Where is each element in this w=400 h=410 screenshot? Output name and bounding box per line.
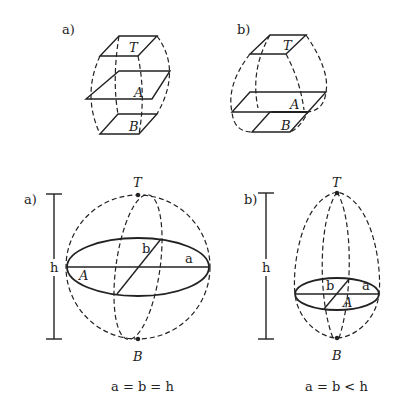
pole-top-dot: [335, 191, 339, 195]
label-b: b: [142, 241, 150, 256]
label-a: a: [362, 278, 370, 293]
label-B: B: [132, 349, 143, 364]
meridian-right: [337, 192, 349, 338]
panel-label: b): [244, 192, 257, 207]
label-T: T: [332, 175, 342, 190]
plane-middle: [232, 92, 326, 112]
pole-bottom-dot: [335, 336, 339, 340]
pole-top-dot: [136, 193, 140, 197]
label-A: A: [289, 97, 299, 112]
envelope-left: [91, 56, 100, 134]
caption: a = b < h: [305, 379, 368, 394]
panel-label: b): [237, 22, 250, 37]
label-a: a: [185, 251, 193, 266]
label-A: A: [133, 85, 143, 100]
plane-bottom: [252, 112, 308, 132]
panel-bottom-b: b) h T B A a b a = b < h: [244, 175, 380, 394]
label-A: A: [78, 268, 88, 283]
label-h: h: [50, 260, 59, 275]
label-T: T: [283, 38, 293, 53]
label-A: A: [342, 295, 352, 310]
label-h: h: [262, 260, 271, 275]
label-B: B: [128, 119, 139, 134]
panel-label: a): [24, 192, 37, 207]
label-T: T: [129, 40, 139, 55]
panel-top-a: a) T A B: [62, 22, 170, 134]
plane-top: [250, 35, 306, 54]
meridian-left: [322, 192, 337, 338]
panel-label: a): [62, 22, 75, 37]
envelope-right: [290, 35, 327, 132]
label-B: B: [280, 118, 291, 133]
egg-outline: [294, 192, 379, 338]
panel-top-b: b) T A B: [231, 22, 327, 133]
caption: a = b = h: [111, 379, 174, 394]
plane-middle: [86, 71, 170, 99]
label-T: T: [133, 175, 143, 190]
label-B: B: [331, 348, 342, 363]
envelope-back-left: [115, 36, 119, 114]
pole-bottom-dot: [136, 337, 140, 341]
label-b: b: [326, 278, 334, 293]
diagram-canvas: a) T A B b) T A B a): [0, 0, 400, 410]
panel-bottom-a: a) h T B A a b a = b = h: [24, 175, 210, 394]
